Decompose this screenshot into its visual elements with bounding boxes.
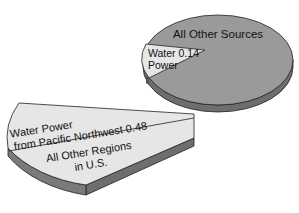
label-water-power-top-1: Water 0.14 — [148, 47, 199, 59]
label-water-power-top-2: Power — [148, 59, 178, 71]
label-all-other-sources: All Other Sources — [173, 28, 263, 40]
pie-chart: All Other Sources Water 0.14 Power Water… — [0, 0, 299, 213]
